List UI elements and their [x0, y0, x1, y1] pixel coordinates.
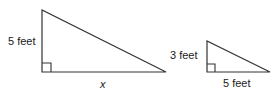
small-triangle-height-label: 3 feet: [170, 50, 198, 61]
small-right-triangle: [207, 41, 270, 72]
small-triangle-base-label: 5 feet: [223, 78, 251, 89]
small-triangle-right-angle-icon: [207, 64, 215, 72]
large-right-triangle: [42, 10, 166, 72]
similar-triangles-figure: 5 feet x 3 feet 5 feet: [0, 0, 279, 97]
large-triangle-height-label: 5 feet: [8, 36, 36, 47]
large-triangle-right-angle-icon: [42, 63, 51, 72]
large-triangle-outline: [42, 10, 166, 72]
small-triangle-outline: [207, 41, 270, 72]
large-triangle-base-label: x: [100, 79, 106, 90]
